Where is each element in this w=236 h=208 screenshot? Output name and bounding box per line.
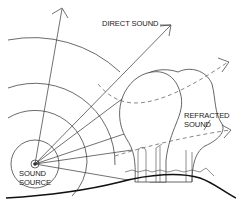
ray-3 xyxy=(35,132,130,164)
sound-source-icon xyxy=(33,162,37,166)
arrow-head-up xyxy=(52,8,68,18)
label-source-line2: SOURCE xyxy=(19,178,51,187)
ray-4 xyxy=(35,150,132,164)
label-refracted-line2: SOUND xyxy=(184,120,212,129)
label-refracted-line1: REFRACTED xyxy=(184,111,230,120)
arrow-head-refracted-lower xyxy=(222,125,231,138)
wavefront-4 xyxy=(8,83,115,165)
label-direct-sound: DIRECT SOUND xyxy=(102,19,159,28)
ray-2 xyxy=(35,96,126,164)
label-source-line1: SOUND xyxy=(19,169,47,178)
wavefront-5 xyxy=(8,38,120,72)
sound-propagation-diagram: DIRECT SOUND REFRACTED SOUND SOUND SOURC… xyxy=(0,0,236,208)
